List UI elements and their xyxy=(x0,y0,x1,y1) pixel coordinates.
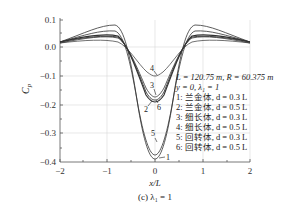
svg-text:1: 1 xyxy=(166,153,170,162)
svg-text:−2: −2 xyxy=(55,166,65,176)
svg-text:−1: −1 xyxy=(102,166,112,176)
svg-text:5: 5 xyxy=(151,129,155,138)
curve-labels: 4 3 2 6 5 1 xyxy=(144,64,170,162)
svg-text:5: 回转体, d = 0.3 L: 5: 回转体, d = 0.3 L xyxy=(176,132,247,142)
svg-text:1: 1 xyxy=(201,166,206,176)
x-tick-labels: −2 −1 0 1 2 xyxy=(55,166,252,176)
svg-text:4: 4 xyxy=(150,64,154,73)
svg-text:2: 兰金体, d = 0.5 L: 2: 兰金体, d = 0.5 L xyxy=(176,102,247,112)
svg-text:6: 回转体, d = 0.5 L: 6: 回转体, d = 0.5 L xyxy=(176,142,247,152)
legend: L = 120.75 m, R = 60.375 m y = 0, λ₁ = 1… xyxy=(175,72,273,152)
y-tick-labels: 0.1 0.0 −0.1 −0.2 −0.3 −0.4 xyxy=(40,15,57,167)
svg-text:0.1: 0.1 xyxy=(45,15,56,25)
svg-text:3: 3 xyxy=(150,81,154,90)
svg-text:3: 细长体, d = 0.3 L: 3: 细长体, d = 0.3 L xyxy=(176,112,247,122)
svg-text:0: 0 xyxy=(153,166,158,176)
figure-caption: (c) λ₁ = 1 xyxy=(138,192,172,202)
svg-text:1: 兰金体, d = 0.3 L: 1: 兰金体, d = 0.3 L xyxy=(176,92,247,102)
svg-text:−0.1: −0.1 xyxy=(40,71,56,81)
svg-text:0.0: 0.0 xyxy=(45,42,57,52)
svg-text:y = 0, λ₁ = 1: y = 0, λ₁ = 1 xyxy=(175,82,219,92)
svg-text:−0.3: −0.3 xyxy=(40,128,57,138)
svg-text:−0.2: −0.2 xyxy=(40,100,56,110)
svg-text:2: 2 xyxy=(144,105,148,114)
svg-text:−0.4: −0.4 xyxy=(40,157,57,167)
svg-text:L = 120.75 m, R = 60.375 m: L = 120.75 m, R = 60.375 m xyxy=(175,72,273,82)
svg-text:6: 6 xyxy=(157,103,161,112)
svg-text:4: 细长体, d = 0.5 L: 4: 细长体, d = 0.5 L xyxy=(176,122,247,132)
y-axis-label: Cp xyxy=(20,83,33,94)
x-axis-label: x/L xyxy=(148,178,161,188)
chart: 0.1 0.0 −0.1 −0.2 −0.3 −0.4 −2 −1 0 1 2 … xyxy=(0,0,296,216)
svg-text:2: 2 xyxy=(248,166,253,176)
